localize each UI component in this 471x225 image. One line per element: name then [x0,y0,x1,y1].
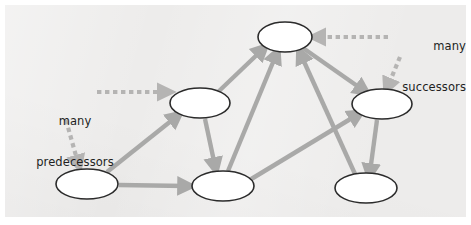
edge-bottommid-to-top [228,55,276,171]
node-bottom-mid[interactable] [192,171,254,201]
label-many-predecessors: many predecessors [36,88,114,196]
label-successors-line1: many [392,40,466,54]
edge-rightmid-to-bottomright [370,120,377,172]
edge-midleft-to-bottommid [205,119,215,166]
label-predecessors-line2: predecessors [36,156,114,170]
node-top[interactable] [258,22,312,52]
node-bottom-right[interactable] [335,173,397,203]
annotation-edge-layer [66,37,400,163]
edge-bottommid-to-rightmid [248,115,357,181]
label-successors-line2: successors [392,81,466,95]
edge-midleft-to-top [218,50,262,92]
diagram-page: many predecessors many successors [0,0,471,225]
edge-bottomleft-to-bottommid [119,185,186,186]
label-predecessors-line1: many [36,115,114,129]
node-mid-left[interactable] [170,88,230,118]
label-many-successors: many successors [392,13,466,121]
edge-bottomleft-to-midleft [107,117,176,172]
edge-layer [107,48,377,186]
edge-bottomright-to-top [301,55,355,174]
